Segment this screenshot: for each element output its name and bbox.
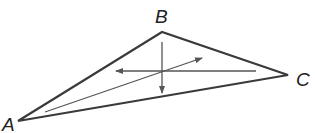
vertex-label-b: B <box>155 6 168 27</box>
vertex-label-a: A <box>1 114 15 133</box>
triangle-diagram: A B C <box>0 0 315 133</box>
vertex-label-c: C <box>296 69 310 90</box>
